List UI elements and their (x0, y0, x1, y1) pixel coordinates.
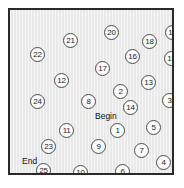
node-5[interactable]: 5 (146, 120, 161, 135)
node-11[interactable]: 11 (59, 123, 74, 138)
annotation-begin: Begin (95, 112, 117, 121)
node-3[interactable]: 3 (162, 93, 174, 108)
node-1[interactable]: 1 (110, 123, 125, 138)
node-8[interactable]: 8 (81, 94, 96, 109)
node-4[interactable]: 4 (156, 155, 171, 170)
node-21[interactable]: 21 (63, 33, 78, 48)
node-14[interactable]: 14 (123, 100, 138, 115)
node-9[interactable]: 9 (91, 139, 106, 154)
node-25[interactable]: 25 (36, 163, 51, 175)
node-15[interactable]: 15 (164, 51, 174, 66)
node-7[interactable]: 7 (134, 143, 149, 158)
node-13[interactable]: 13 (141, 75, 156, 90)
node-18[interactable]: 18 (142, 34, 157, 49)
annotation-end: End (22, 157, 37, 166)
diagram-canvas: BeginEnd12345678910111213141516171819202… (0, 0, 184, 188)
node-17[interactable]: 17 (95, 61, 110, 76)
node-10[interactable]: 10 (73, 165, 88, 175)
node-20[interactable]: 20 (104, 25, 119, 40)
node-22[interactable]: 22 (30, 47, 45, 62)
node-2[interactable]: 2 (113, 84, 128, 99)
node-19[interactable]: 19 (165, 25, 174, 40)
node-16[interactable]: 16 (125, 49, 140, 64)
plot-frame: BeginEnd12345678910111213141516171819202… (8, 8, 174, 175)
node-6[interactable]: 6 (115, 164, 130, 175)
node-23[interactable]: 23 (41, 139, 56, 154)
node-24[interactable]: 24 (30, 94, 45, 109)
node-12[interactable]: 12 (54, 73, 69, 88)
